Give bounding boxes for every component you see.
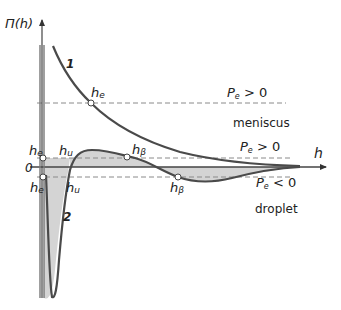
point-he-curve1 (88, 100, 94, 106)
pressure-label-middle: Pe > 0 (240, 139, 280, 155)
label-hu-bottom: hu (66, 180, 80, 195)
label-he-wall-top: he (29, 143, 43, 158)
label-he-curve1: he (91, 85, 105, 100)
region-label-meniscus: meniscus (233, 116, 290, 130)
point-he-wall-bottom (40, 174, 46, 180)
zero-label: 0 (25, 161, 33, 175)
label-hb-top: hβ (132, 142, 146, 157)
label-hu-top: hu (59, 143, 73, 158)
pressure-label-bottom: Pe < 0 (256, 175, 296, 191)
pressure-label-top: Pe > 0 (227, 85, 267, 101)
y-axis-label: Π(h) (5, 16, 33, 31)
disjoining-pressure-diagram: Π(h) h 0 1 2 he he he hu hu hβ hβ Pe > 0… (0, 0, 341, 310)
curve-1-label: 1 (66, 57, 74, 71)
x-axis-label: h (314, 145, 323, 161)
curve-2-label: 2 (63, 210, 71, 224)
region-label-droplet: droplet (255, 202, 298, 216)
label-hb-bottom: hβ (170, 180, 184, 195)
point-hb-top (124, 154, 130, 160)
